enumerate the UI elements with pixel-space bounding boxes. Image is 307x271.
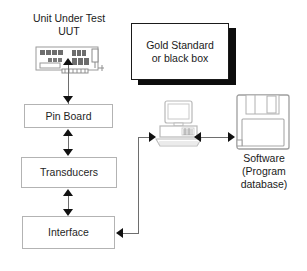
arrow-left-to-interface (116, 228, 123, 238)
box-interface[interactable]: Interface (22, 216, 115, 249)
box-label-gold-standard: Gold Standard or black box (146, 39, 214, 64)
box-label-transducers: Transducers (40, 166, 98, 179)
connector-interface-horizontal (123, 233, 139, 234)
connector-riser-vertical (138, 137, 139, 233)
arrow-down-to-transducers (63, 149, 73, 156)
floppy-disk-icon (236, 94, 290, 150)
arrow-down-to-pinboard (63, 96, 73, 103)
arrow-down-to-interface (63, 209, 73, 216)
arrow-left-to-computer (194, 132, 201, 142)
uut-title-line2: UUT (14, 25, 124, 38)
uut-title-line1: Unit Under Test (14, 12, 124, 25)
box-gold-standard[interactable]: Gold Standard or black box (131, 23, 229, 80)
box-label-pin-board: Pin Board (45, 110, 91, 123)
box-transducers[interactable]: Transducers (21, 157, 117, 188)
diagram-canvas: Unit Under Test UUT (0, 0, 307, 271)
software-caption: Software (Program database) (226, 152, 302, 191)
connector-computer-software (200, 137, 231, 138)
arrow-up-to-pinboard (63, 129, 73, 136)
arrow-up-to-transducers (63, 189, 73, 196)
box-label-interface: Interface (48, 226, 89, 239)
box-pin-board[interactable]: Pin Board (24, 104, 113, 128)
arrow-up-to-uut (63, 58, 73, 65)
arrow-right-to-software (228, 132, 235, 142)
